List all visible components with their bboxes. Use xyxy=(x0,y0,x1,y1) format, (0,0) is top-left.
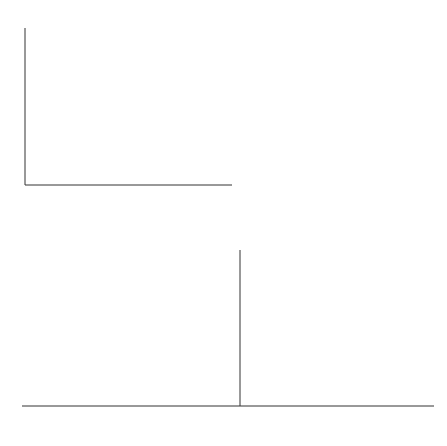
transfer-characteristic-chart xyxy=(0,0,434,406)
jfet-characteristics-figure xyxy=(0,0,447,446)
drain-characteristics-chart xyxy=(0,0,232,185)
